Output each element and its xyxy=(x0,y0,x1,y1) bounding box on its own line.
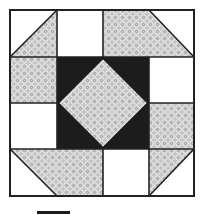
bottom-white-square xyxy=(103,149,149,196)
right-white-square xyxy=(149,57,194,103)
top-left-corner-patch xyxy=(10,10,57,57)
quilt-block-diagram xyxy=(0,0,207,215)
scale-bar xyxy=(37,211,70,214)
left-pattern-square xyxy=(10,57,57,103)
top-white-square xyxy=(57,10,103,57)
left-white-square xyxy=(10,103,57,149)
top-right-corner-patch xyxy=(103,10,194,57)
bottom-left-corner-patch xyxy=(10,149,103,196)
